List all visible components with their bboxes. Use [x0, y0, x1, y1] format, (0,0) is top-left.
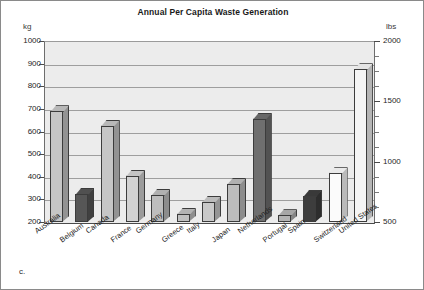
y-tick-mark-left — [39, 86, 44, 87]
y-tick-mark-right-minor — [375, 192, 379, 193]
x-tick-label: Belgium — [58, 221, 85, 244]
panel-letter: c. — [19, 267, 25, 276]
y-tick-label-right: 1000 — [383, 158, 417, 166]
bar-side-face — [341, 167, 348, 222]
gridline — [45, 87, 374, 88]
bar-front-face — [75, 194, 88, 222]
y-tick-label-left: 500 — [7, 150, 41, 158]
bar-front-face — [50, 111, 63, 222]
y-tick-mark-right-minor — [375, 116, 379, 117]
bar-front-face — [177, 214, 190, 222]
bar-side-face — [366, 63, 373, 222]
y-tick-mark-right-minor — [375, 86, 379, 87]
bar-side-face — [113, 120, 120, 222]
bar-front-face — [101, 126, 114, 222]
y-tick-label-left: 1000 — [7, 37, 41, 45]
gridline — [45, 65, 374, 66]
y-axis-right: 200015001000500 — [383, 1, 423, 290]
y-tick-mark-left — [39, 109, 44, 110]
bar-front-face — [126, 176, 139, 222]
gridline — [45, 110, 374, 111]
y-tick-mark-left — [39, 222, 44, 223]
y-axis-left: 1000900800700600500400300200 — [3, 1, 41, 290]
y-tick-mark-right — [374, 101, 380, 102]
y-tick-mark-right — [374, 162, 380, 163]
y-tick-mark-right-minor — [375, 207, 379, 208]
y-tick-mark-left — [39, 199, 44, 200]
y-tick-label-left: 600 — [7, 128, 41, 136]
bar-side-face — [62, 105, 69, 222]
y-tick-mark-left — [39, 64, 44, 65]
bar-side-face — [138, 170, 145, 222]
y-tick-label-left: 900 — [7, 60, 41, 68]
bar-front-face — [354, 69, 367, 222]
y-tick-label-right: 500 — [383, 218, 417, 226]
x-tick-label: France — [109, 223, 133, 244]
chart-title: Annual Per Capita Waste Generation — [1, 7, 424, 17]
y-tick-mark-right-minor — [375, 132, 379, 133]
x-tick-label: Japan — [210, 225, 232, 244]
x-tick-label: Portugal — [261, 221, 289, 245]
y-tick-label-left: 300 — [7, 195, 41, 203]
gridline — [45, 155, 374, 156]
y-tick-mark-right — [374, 41, 380, 42]
x-tick-label: Greece — [160, 223, 185, 245]
y-tick-mark-left — [39, 154, 44, 155]
y-tick-mark-left — [39, 41, 44, 42]
y-tick-mark-right-minor — [375, 147, 379, 148]
y-tick-mark-right — [374, 222, 380, 223]
gridline — [45, 133, 374, 134]
bar-front-face — [227, 184, 240, 222]
bar-front-face — [202, 202, 215, 222]
y-tick-mark-right-minor — [375, 56, 379, 57]
y-tick-mark-left — [39, 132, 44, 133]
y-tick-label-left: 800 — [7, 82, 41, 90]
y-tick-label-right: 1500 — [383, 97, 417, 105]
gridline — [45, 178, 374, 179]
bar-front-face — [303, 196, 316, 222]
y-tick-label-right: 2000 — [383, 37, 417, 45]
y-tick-mark-right-minor — [375, 71, 379, 72]
y-tick-mark-right-minor — [375, 177, 379, 178]
bar-front-face — [329, 173, 342, 222]
y-tick-label-left: 700 — [7, 105, 41, 113]
figure-frame: Annual Per Capita Waste Generation kg lb… — [0, 0, 424, 290]
y-tick-label-left: 400 — [7, 173, 41, 181]
y-tick-mark-left — [39, 177, 44, 178]
